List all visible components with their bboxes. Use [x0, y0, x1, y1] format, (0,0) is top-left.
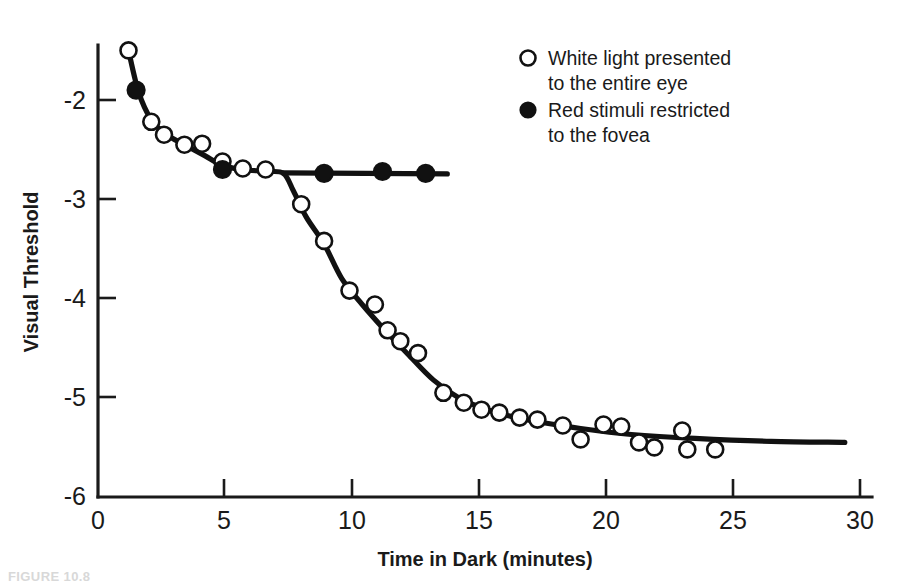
data-point [316, 165, 333, 182]
x-axis-ticks [224, 479, 860, 497]
x-tick-label: 10 [338, 506, 366, 534]
data-point [596, 417, 612, 433]
x-tick-label: 15 [465, 506, 493, 534]
data-point [194, 136, 210, 152]
legend-item-label: White light presented [548, 47, 731, 69]
data-point [293, 196, 309, 212]
data-point [631, 434, 647, 450]
legend-item-label: to the fovea [548, 124, 650, 146]
x-tick-label: 30 [846, 506, 874, 534]
data-point [573, 431, 589, 447]
legend-item-label: to the entire eye [548, 72, 688, 94]
curve-layer [129, 50, 845, 442]
y-axis-title: Visual Threshold [20, 192, 42, 353]
y-tick-label: -6 [64, 482, 86, 510]
data-point [342, 283, 358, 299]
y-tick-label: -3 [64, 185, 86, 213]
x-tick-label: 0 [91, 506, 105, 534]
data-point [646, 439, 662, 455]
data-point [417, 165, 434, 182]
data-point [555, 418, 571, 434]
series-red-stimuli-markers [128, 82, 435, 182]
data-point [392, 333, 408, 349]
data-point [214, 161, 231, 178]
data-point [674, 423, 690, 439]
data-point [235, 161, 251, 177]
data-point [316, 233, 332, 249]
data-point [410, 345, 426, 361]
data-point [374, 163, 391, 180]
data-point [613, 419, 629, 435]
y-tick-label: -2 [64, 86, 86, 114]
data-point [456, 395, 472, 411]
data-point [679, 441, 695, 457]
data-point [258, 162, 274, 178]
y-axis-ticks [98, 100, 116, 397]
x-axis-title: Time in Dark (minutes) [377, 548, 592, 570]
data-point [143, 114, 159, 130]
data-point [176, 137, 192, 153]
y-tick-label: -5 [64, 383, 86, 411]
legend: White light presented to the entire eye … [521, 47, 732, 146]
legend-filled-circle-icon [521, 103, 536, 118]
figure-caption-clipped: FIGURE 10.8 [8, 569, 90, 584]
data-point [491, 405, 507, 421]
data-point [474, 402, 490, 418]
x-tick-label: 25 [719, 506, 747, 534]
data-point [128, 82, 145, 99]
legend-open-circle-icon [521, 51, 536, 66]
data-point [156, 127, 172, 143]
cone-rod-curve [129, 50, 845, 442]
data-point [707, 441, 723, 457]
legend-item-label: Red stimuli restricted [548, 99, 730, 121]
data-point [367, 297, 383, 313]
x-tick-label: 20 [592, 506, 620, 534]
x-tick-label: 5 [217, 506, 231, 534]
y-tick-label: -4 [64, 284, 86, 312]
data-point [435, 385, 451, 401]
data-point [121, 42, 137, 58]
data-point [512, 410, 528, 426]
data-point [529, 412, 545, 428]
